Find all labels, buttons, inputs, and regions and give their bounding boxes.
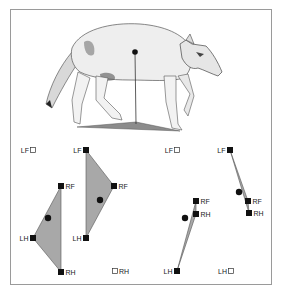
foot-contact-rf-icon <box>245 198 251 204</box>
center-of-mass-dot <box>45 215 51 221</box>
foot-contact-rf-icon <box>111 183 117 189</box>
foot-contact-rh-icon <box>246 210 252 216</box>
foot-contact-rf-icon <box>58 183 64 189</box>
foot-contact-lh-icon <box>83 235 89 241</box>
foot-label-lf: LF <box>217 147 225 154</box>
center-of-mass-dot <box>132 49 138 55</box>
foot-contact-rf-icon <box>193 198 199 204</box>
foot-label-rf: RF <box>66 183 75 190</box>
foot-label-lh: LH <box>218 268 227 275</box>
foot-contact-rh-icon <box>193 211 199 217</box>
foot-label-rh: RH <box>119 268 129 275</box>
foot-label-lh: LH <box>20 235 29 242</box>
foot-contact-lf-icon <box>227 147 233 153</box>
foot-lifted-lf-icon <box>175 148 180 153</box>
foot-label-rf: RF <box>119 183 128 190</box>
foot-label-lh: LH <box>164 268 173 275</box>
footfall-panel-2: LFRFLHRH <box>73 147 130 275</box>
foot-label-rh: RH <box>254 210 264 217</box>
foot-contact-lf-icon <box>83 147 89 153</box>
foot-label-lh: LH <box>73 235 82 242</box>
foot-lifted-rh-icon <box>113 269 118 274</box>
footfall-panel-1: LFRFLHRH <box>20 147 76 276</box>
foot-label-lf: LF <box>73 147 81 154</box>
foot-label-rf: RF <box>253 198 262 205</box>
center-of-mass-dot <box>182 215 188 221</box>
footfall-panel-3: LFRFRHLH <box>164 147 211 275</box>
foot-lifted-lf-icon <box>31 148 36 153</box>
support-polygon <box>77 122 180 131</box>
foot-label-rh: RH <box>66 269 76 276</box>
foot-label-lf: LF <box>165 147 173 154</box>
center-of-mass-dot <box>236 189 242 195</box>
foot-label-rf: RF <box>201 198 210 205</box>
foot-contact-rh-icon <box>58 269 64 275</box>
gait-diagram: LFRFLHRH LFRFLHRH LFRFRHLH LFRFRHLH <box>0 0 282 295</box>
foot-contact-lh-icon <box>174 268 180 274</box>
footfall-panel-4: LFRFRHLH <box>217 147 263 275</box>
support-polygon <box>33 186 61 272</box>
foot-label-lf: LF <box>21 147 29 154</box>
wolf-illustration <box>46 24 222 131</box>
foot-lifted-lh-icon <box>229 269 234 274</box>
center-of-mass-dot <box>97 197 103 203</box>
foot-label-rh: RH <box>201 211 211 218</box>
foot-contact-lh-icon <box>30 235 36 241</box>
support-polygon <box>86 150 114 238</box>
